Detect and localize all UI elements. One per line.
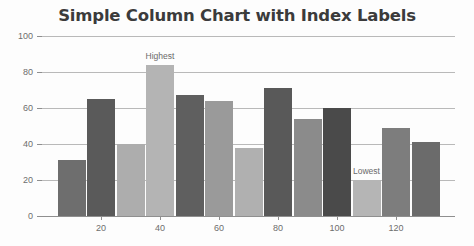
gridline-y-100: 100 — [42, 36, 455, 37]
bar[interactable]: Lowest — [353, 180, 381, 216]
x-tick-label-120: 120 — [388, 223, 403, 233]
y-tick-label-40: 40 — [23, 139, 33, 149]
y-tick-mark-40 — [37, 144, 42, 145]
bar[interactable] — [87, 99, 115, 216]
bar[interactable] — [176, 95, 204, 216]
bar[interactable] — [58, 160, 86, 216]
chart-title: Simple Column Chart with Index Labels — [0, 6, 474, 25]
bar[interactable] — [294, 119, 322, 216]
bar[interactable]: Highest — [146, 65, 174, 216]
x-tick-label-100: 100 — [329, 223, 344, 233]
y-tick-mark-60 — [37, 108, 42, 109]
bar[interactable] — [235, 148, 263, 216]
x-tick-mark-40 — [160, 216, 161, 220]
bar[interactable] — [264, 88, 292, 216]
x-tick-mark-60 — [219, 216, 220, 220]
bar[interactable] — [323, 108, 351, 216]
x-tick-mark-80 — [278, 216, 279, 220]
bar-index-label: Lowest — [353, 166, 380, 176]
y-tick-mark-100 — [37, 36, 42, 37]
plot-area: 020406080100 HighestLowest — [42, 36, 455, 216]
y-tick-mark-20 — [37, 180, 42, 181]
bar[interactable] — [412, 142, 440, 216]
bar[interactable] — [382, 128, 410, 216]
bar[interactable] — [117, 144, 145, 216]
x-axis: 20406080100120 — [42, 216, 455, 246]
x-tick-label-80: 80 — [273, 223, 283, 233]
bar-index-label: Highest — [146, 51, 175, 61]
y-tick-label-60: 60 — [23, 103, 33, 113]
y-tick-label-0: 0 — [28, 211, 33, 221]
x-tick-mark-120 — [396, 216, 397, 220]
x-tick-label-20: 20 — [96, 223, 106, 233]
x-tick-mark-20 — [101, 216, 102, 220]
y-tick-label-20: 20 — [23, 175, 33, 185]
x-tick-mark-100 — [337, 216, 338, 220]
x-tick-label-60: 60 — [214, 223, 224, 233]
y-tick-label-100: 100 — [18, 31, 33, 41]
chart-container: Simple Column Chart with Index Labels 02… — [0, 0, 474, 246]
y-tick-label-80: 80 — [23, 67, 33, 77]
y-tick-mark-80 — [37, 72, 42, 73]
gridline-y-80: 80 — [42, 72, 455, 73]
bar[interactable] — [205, 101, 233, 216]
x-tick-label-40: 40 — [155, 223, 165, 233]
